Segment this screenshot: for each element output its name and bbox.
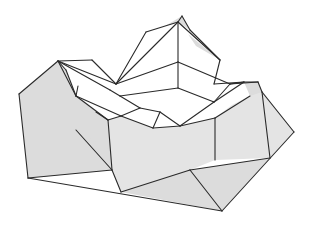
fold-line [214, 60, 220, 84]
fold-line [190, 30, 220, 60]
fold-line [178, 62, 230, 84]
fold-line [153, 112, 160, 128]
origami-drawing [0, 0, 316, 228]
fold-line [110, 90, 120, 96]
fold-line [120, 88, 178, 96]
origami-box-figure [0, 0, 316, 228]
fold-line [58, 60, 92, 61]
fold-line [178, 88, 214, 102]
fold-line [140, 108, 160, 112]
fold-line [116, 62, 178, 84]
fold-line [121, 108, 140, 116]
fold-line [160, 112, 180, 126]
shaded-regions [19, 16, 294, 211]
fold-line [120, 96, 140, 108]
fold-line [92, 60, 116, 84]
fold-line [76, 86, 78, 96]
right-flap [215, 88, 294, 160]
